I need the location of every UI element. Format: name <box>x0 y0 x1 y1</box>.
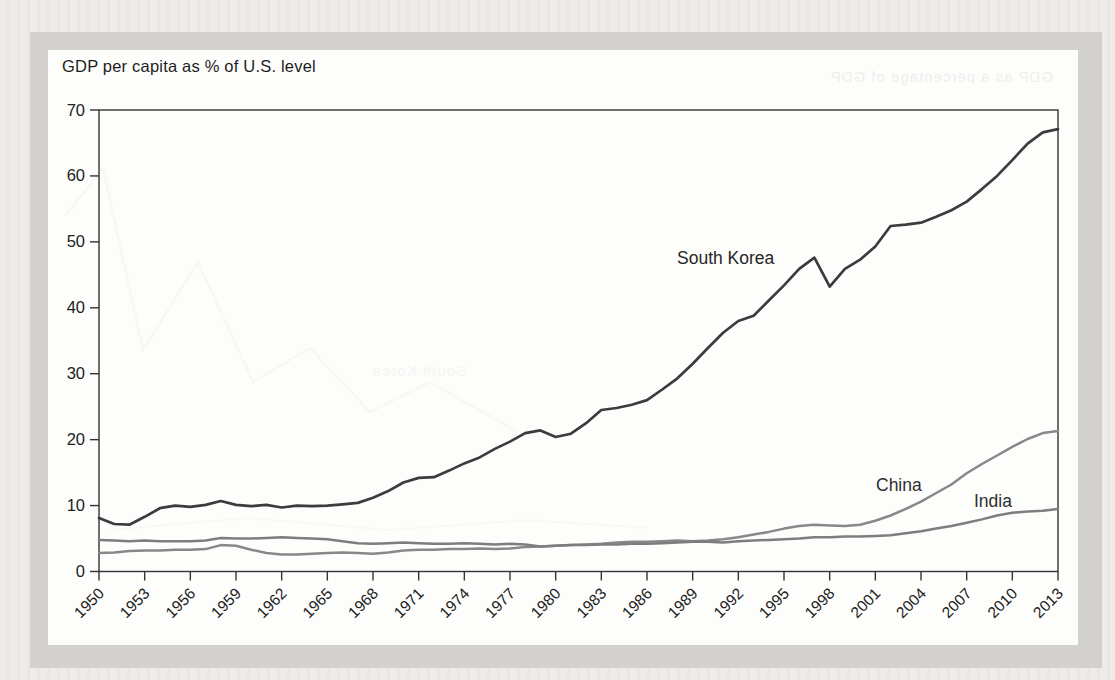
y-tick-label: 70 <box>67 101 85 119</box>
x-tick-label: 2004 <box>893 584 930 621</box>
y-tick-label: 10 <box>67 496 85 514</box>
chart-plot: 7060504030201001950195319561959196219651… <box>67 101 1066 622</box>
x-tick-label: 1962 <box>253 585 289 621</box>
page-background: GDP as a percentage of GDP South Korea G… <box>0 0 1115 680</box>
y-tick-label: 0 <box>76 562 85 580</box>
x-tick-label: 1986 <box>619 585 655 621</box>
y-tick-label: 40 <box>67 298 85 316</box>
figure-frame: GDP as a percentage of GDP South Korea G… <box>30 32 1102 668</box>
x-tick-label: 2013 <box>1030 585 1066 621</box>
x-tick-label: 1965 <box>299 585 335 621</box>
x-tick-label: 1995 <box>756 585 792 621</box>
y-tick-label: 60 <box>67 166 85 184</box>
x-tick-label: 2001 <box>847 585 883 621</box>
x-tick-label: 2007 <box>938 585 974 621</box>
series-line-south-korea <box>99 129 1058 525</box>
y-tick-label: 20 <box>67 430 85 448</box>
x-tick-label: 1956 <box>162 585 198 621</box>
x-tick-label: 1971 <box>390 585 426 621</box>
series-label-india: India <box>974 491 1012 511</box>
page-bleed-curve-2 <box>108 518 648 530</box>
x-tick-label: 1974 <box>436 584 473 621</box>
y-tick-label: 30 <box>67 364 85 382</box>
x-tick-label: 2010 <box>984 584 1021 621</box>
series-line-india <box>99 509 1058 547</box>
x-tick-label: 1989 <box>664 585 700 621</box>
series-label-south-korea: South Korea <box>677 248 775 268</box>
x-tick-label: 1953 <box>116 585 152 621</box>
x-tick-label: 1980 <box>527 584 564 621</box>
chart-card: GDP as a percentage of GDP South Korea G… <box>48 50 1078 645</box>
chart-canvas: 7060504030201001950195319561959196219651… <box>48 50 1078 645</box>
x-tick-label: 1959 <box>208 585 244 621</box>
page-bleed-curve <box>66 168 518 432</box>
x-tick-label: 1977 <box>482 585 518 621</box>
y-tick-label: 50 <box>67 232 85 250</box>
x-tick-label: 1950 <box>71 584 108 621</box>
x-tick-label: 1992 <box>710 585 746 621</box>
x-tick-label: 1983 <box>573 585 609 621</box>
plot-border <box>99 110 1058 572</box>
x-tick-label: 1998 <box>801 585 837 621</box>
series-label-china: China <box>876 475 922 495</box>
x-tick-label: 1968 <box>345 585 381 621</box>
